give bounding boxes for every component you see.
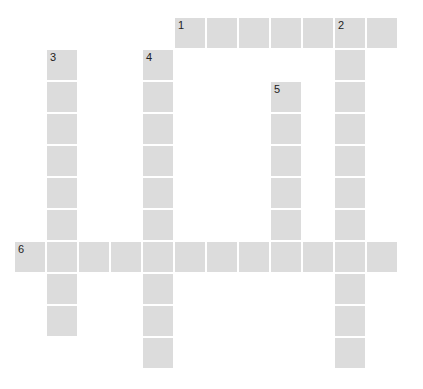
crossword-cell-r1-c1[interactable]: 3: [47, 50, 77, 80]
crossword-cell-r2-c10[interactable]: [335, 82, 365, 112]
cell-letter: [239, 242, 269, 272]
cell-letter: [271, 210, 301, 240]
cell-letter: [335, 210, 365, 240]
cell-letter: [15, 242, 45, 272]
cell-letter: [271, 146, 301, 176]
cell-letter: [271, 178, 301, 208]
cell-letter: [335, 50, 365, 80]
cell-letter: [47, 178, 77, 208]
crossword-cell-r1-c4[interactable]: 4: [143, 50, 173, 80]
crossword-cell-r4-c1[interactable]: [47, 146, 77, 176]
cell-letter: [175, 242, 205, 272]
cell-letter: [47, 50, 77, 80]
crossword-cell-r3-c1[interactable]: [47, 114, 77, 144]
cell-letter: [47, 114, 77, 144]
crossword-cell-r0-c5[interactable]: 1: [175, 18, 205, 48]
crossword-cell-r4-c8[interactable]: [271, 146, 301, 176]
crossword-cell-r7-c4[interactable]: [143, 242, 173, 272]
crossword-cell-r3-c10[interactable]: [335, 114, 365, 144]
cell-letter: [335, 18, 365, 48]
crossword-cell-r0-c9[interactable]: [303, 18, 333, 48]
cell-letter: [207, 242, 237, 272]
cell-letter: [335, 274, 365, 304]
crossword-cell-r8-c4[interactable]: [143, 274, 173, 304]
crossword-cell-r7-c8[interactable]: [271, 242, 301, 272]
cell-letter: [143, 114, 173, 144]
crossword-cell-r7-c11[interactable]: [367, 242, 397, 272]
cell-letter: [47, 306, 77, 336]
cell-letter: [143, 242, 173, 272]
crossword-cell-r7-c7[interactable]: [239, 242, 269, 272]
crossword-cell-r7-c2[interactable]: [79, 242, 109, 272]
crossword-cell-r6-c4[interactable]: [143, 210, 173, 240]
crossword-cell-r4-c10[interactable]: [335, 146, 365, 176]
cell-letter: [207, 18, 237, 48]
cell-letter: [335, 306, 365, 336]
crossword-cell-r9-c4[interactable]: [143, 306, 173, 336]
cell-letter: [143, 178, 173, 208]
cell-letter: [175, 18, 205, 48]
crossword-cell-r0-c7[interactable]: [239, 18, 269, 48]
cell-letter: [335, 114, 365, 144]
crossword-cell-r0-c8[interactable]: [271, 18, 301, 48]
crossword-cell-r0-c6[interactable]: [207, 18, 237, 48]
crossword-cell-r7-c10[interactable]: [335, 242, 365, 272]
crossword-cell-r2-c8[interactable]: 5: [271, 82, 301, 112]
crossword-cell-r10-c4[interactable]: [143, 338, 173, 368]
cell-letter: [47, 210, 77, 240]
crossword-cell-r5-c10[interactable]: [335, 178, 365, 208]
cell-letter: [47, 242, 77, 272]
cell-letter: [143, 338, 173, 368]
crossword-cell-r8-c10[interactable]: [335, 274, 365, 304]
cell-letter: [303, 18, 333, 48]
crossword-cell-r2-c4[interactable]: [143, 82, 173, 112]
cell-letter: [367, 18, 397, 48]
cell-letter: [143, 210, 173, 240]
cell-letter: [47, 274, 77, 304]
cell-letter: [143, 82, 173, 112]
crossword-cell-r5-c1[interactable]: [47, 178, 77, 208]
cell-letter: [335, 242, 365, 272]
cell-letter: [271, 242, 301, 272]
crossword-cell-r3-c4[interactable]: [143, 114, 173, 144]
cell-letter: [335, 178, 365, 208]
crossword-cell-r7-c5[interactable]: [175, 242, 205, 272]
cell-letter: [111, 242, 141, 272]
cell-letter: [143, 274, 173, 304]
crossword-cell-r4-c4[interactable]: [143, 146, 173, 176]
cell-letter: [335, 146, 365, 176]
crossword-cell-r0-c11[interactable]: [367, 18, 397, 48]
crossword-cell-r9-c1[interactable]: [47, 306, 77, 336]
crossword-cell-r3-c8[interactable]: [271, 114, 301, 144]
crossword-cell-r2-c1[interactable]: [47, 82, 77, 112]
cell-letter: [79, 242, 109, 272]
crossword-cell-r7-c1[interactable]: [47, 242, 77, 272]
cell-letter: [335, 82, 365, 112]
crossword-cell-r9-c10[interactable]: [335, 306, 365, 336]
crossword-cell-r6-c8[interactable]: [271, 210, 301, 240]
cell-letter: [335, 338, 365, 368]
crossword-cell-r7-c0[interactable]: 6: [15, 242, 45, 272]
cell-letter: [367, 242, 397, 272]
crossword-cell-r7-c6[interactable]: [207, 242, 237, 272]
crossword-cell-r7-c3[interactable]: [111, 242, 141, 272]
cell-letter: [143, 146, 173, 176]
crossword-cell-r0-c10[interactable]: 2: [335, 18, 365, 48]
cell-letter: [303, 242, 333, 272]
crossword-cell-r5-c8[interactable]: [271, 178, 301, 208]
cell-letter: [47, 146, 77, 176]
crossword-cell-r6-c10[interactable]: [335, 210, 365, 240]
crossword-cell-r5-c4[interactable]: [143, 178, 173, 208]
crossword-cell-r7-c9[interactable]: [303, 242, 333, 272]
crossword-cell-r10-c10[interactable]: [335, 338, 365, 368]
cell-letter: [271, 82, 301, 112]
cell-letter: [271, 18, 301, 48]
crossword-grid: 123456: [0, 0, 423, 389]
cell-letter: [271, 114, 301, 144]
crossword-cell-r1-c10[interactable]: [335, 50, 365, 80]
crossword-cell-r6-c1[interactable]: [47, 210, 77, 240]
cell-letter: [143, 306, 173, 336]
cell-letter: [239, 18, 269, 48]
cell-letter: [47, 82, 77, 112]
crossword-cell-r8-c1[interactable]: [47, 274, 77, 304]
